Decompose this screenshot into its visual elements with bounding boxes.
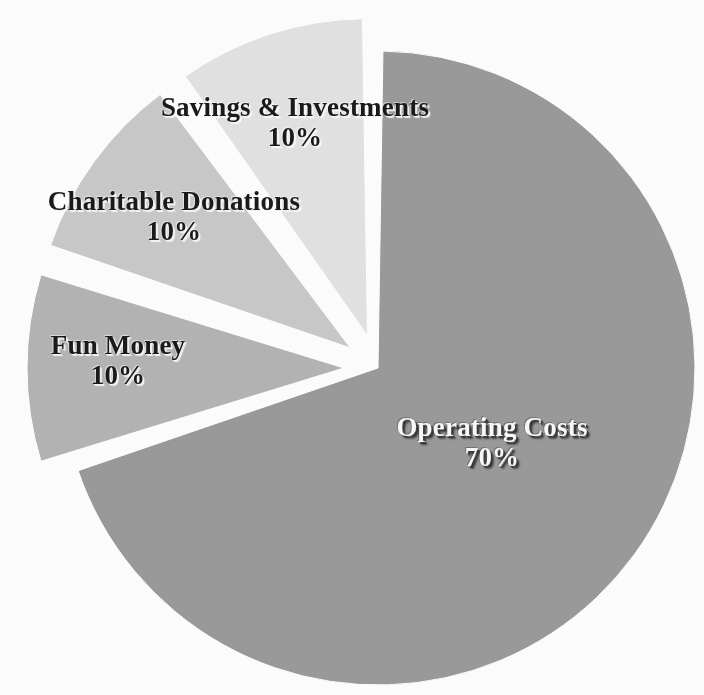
pie-chart: Savings & Investments 10% Charitable Don… — [0, 0, 704, 695]
pie-chart-canvas — [0, 0, 704, 695]
